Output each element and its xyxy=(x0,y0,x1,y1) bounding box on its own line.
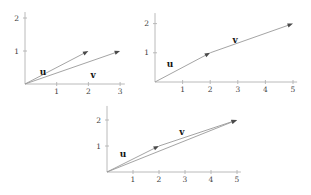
plot-bottom: 1234512uv xyxy=(96,106,241,184)
arrowhead-icon-u xyxy=(83,51,89,55)
arrowhead-icon-u-plus-v xyxy=(231,120,237,124)
vector-line-u-plus-v xyxy=(107,121,234,172)
x-tick-label: 1 xyxy=(54,87,59,96)
vector-line-u xyxy=(25,52,86,84)
x-tick-label: 2 xyxy=(157,175,162,184)
vector-label-v: v xyxy=(90,70,97,80)
x-tick-label: 1 xyxy=(180,85,185,94)
x-tick-label: 2 xyxy=(86,87,91,96)
y-tick-label: 1 xyxy=(96,142,101,151)
vector-line-v xyxy=(159,121,234,146)
plot-top-right: 1234512uv xyxy=(144,13,297,94)
vector-line-v xyxy=(210,25,290,53)
x-tick-label: 3 xyxy=(183,175,188,184)
arrowhead-icon-u xyxy=(204,53,210,57)
x-tick-label: 3 xyxy=(235,85,240,94)
y-tick-label: 1 xyxy=(14,47,19,56)
vector-line-u xyxy=(155,54,208,82)
x-tick-label: 2 xyxy=(208,85,213,94)
x-tick-label: 4 xyxy=(209,175,214,184)
x-tick-label: 3 xyxy=(118,87,123,96)
arrowhead-icon-v xyxy=(114,51,120,55)
arrowhead-icon-v xyxy=(287,23,293,27)
y-tick-label: 1 xyxy=(144,48,149,57)
x-tick-label: 1 xyxy=(131,175,136,184)
x-tick-label: 5 xyxy=(235,175,240,184)
vector-label-v: v xyxy=(231,35,238,45)
y-tick-label: 2 xyxy=(96,116,101,125)
y-tick-label: 2 xyxy=(144,19,149,28)
vector-label-u: u xyxy=(167,59,174,69)
vector-label-u: u xyxy=(120,149,127,159)
y-tick-label: 2 xyxy=(14,14,19,23)
x-tick-label: 4 xyxy=(263,85,268,94)
vector-line-u xyxy=(107,147,156,172)
vector-label-u: u xyxy=(40,67,47,77)
figure-canvas: 12312uv1234512uv1234512uv xyxy=(0,0,311,195)
vector-plots-svg: 12312uv1234512uv1234512uv xyxy=(0,0,311,195)
arrowhead-icon-u xyxy=(153,146,159,150)
plot-top-left: 12312uv xyxy=(14,12,125,96)
vector-label-v: v xyxy=(178,127,185,137)
x-tick-label: 5 xyxy=(291,85,296,94)
